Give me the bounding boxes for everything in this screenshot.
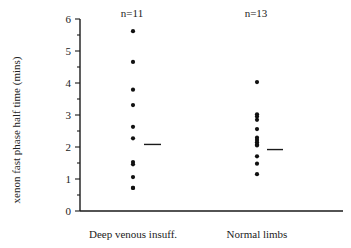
data-point (131, 162, 135, 166)
data-point (255, 127, 259, 131)
y-axis: 0123456 (66, 13, 81, 217)
y-tick-label: 3 (66, 109, 72, 121)
category-label-normal-limbs: Normal limbs (227, 228, 288, 240)
y-tick-label: 5 (66, 45, 72, 57)
data-point (255, 154, 259, 158)
category-label-deep-venous: Deep venous insuff. (89, 228, 177, 240)
y-tick-label: 4 (66, 77, 72, 89)
data-point (131, 186, 135, 190)
data-point (131, 60, 135, 64)
y-axis-label: xenon fast phase half time (mins) (10, 56, 23, 203)
data-point (131, 29, 135, 33)
y-tick-label: 0 (66, 205, 72, 217)
data-point (255, 80, 259, 84)
dot-plot-chart: xenon fast phase half time (mins) 012345… (0, 0, 351, 248)
data-point (255, 143, 259, 147)
data-point (255, 118, 259, 122)
n-label-group1: n=11 (121, 7, 143, 19)
group1-points (131, 29, 161, 190)
data-point (255, 172, 259, 176)
data-point (131, 125, 135, 129)
y-tick-label: 2 (66, 141, 72, 153)
data-point (131, 103, 135, 107)
y-tick-label: 6 (66, 13, 72, 25)
data-point (131, 136, 135, 140)
group2-points (255, 80, 283, 176)
n-label-group2: n=13 (245, 7, 268, 19)
y-tick-label: 1 (66, 173, 72, 185)
data-point (131, 175, 135, 179)
data-point (255, 162, 259, 166)
data-point (131, 88, 135, 92)
